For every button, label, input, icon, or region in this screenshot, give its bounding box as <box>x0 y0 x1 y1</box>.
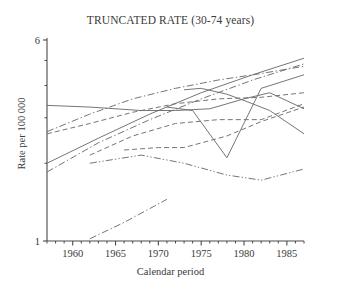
axes <box>43 38 304 246</box>
series-10 <box>90 155 304 180</box>
series-5 <box>47 64 304 172</box>
x-tick-label: 1975 <box>191 248 212 259</box>
series-8 <box>184 88 304 133</box>
tick-labels: 16196019651970197519801985 <box>35 35 298 259</box>
x-tick-label: 1980 <box>234 248 255 259</box>
x-tick-label: 1965 <box>105 248 126 259</box>
y-tick-label: 1 <box>35 236 40 247</box>
x-tick-label: 1985 <box>276 248 297 259</box>
series-9 <box>167 75 304 158</box>
data-series-group <box>47 58 304 239</box>
chart-figure: TRUNCATED RATE (30-74 years) Rate per 10… <box>0 0 341 293</box>
series-3 <box>47 66 304 131</box>
x-tick-label: 1970 <box>148 248 169 259</box>
series-11 <box>90 199 167 238</box>
y-tick-label: 6 <box>35 35 40 46</box>
series-2 <box>47 93 304 134</box>
x-tick-label: 1960 <box>62 248 83 259</box>
plot-area: 16196019651970197519801985 <box>0 0 341 293</box>
